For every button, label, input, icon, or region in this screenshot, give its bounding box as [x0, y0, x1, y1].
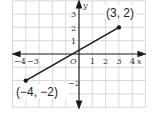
x-axis-label: x — [137, 57, 142, 66]
x-tick-1: 1 — [90, 57, 95, 66]
point-label-neg4-neg2: (−4, −2) — [16, 85, 58, 99]
y-tick-1: 1 — [71, 37, 76, 46]
origin-label: O — [70, 57, 77, 66]
x-tick-neg3: −3 — [27, 57, 39, 66]
x-tick-3: 3 — [117, 57, 122, 66]
y-tick-2: 2 — [71, 24, 76, 33]
x-tick-4: 4 — [130, 57, 135, 66]
y-tick-3: 3 — [71, 10, 76, 19]
point-3-2 — [117, 25, 121, 29]
x-tick-neg4: −4 — [14, 57, 26, 66]
point-neg4-neg2 — [24, 78, 28, 82]
y-tick-neg2: −2 — [68, 79, 80, 88]
coordinate-graph: −4 −3 O 1 2 3 4 x 3 2 1 −2 y (3, 2) (−4,… — [0, 0, 153, 113]
point-label-3-2: (3, 2) — [106, 6, 134, 20]
y-axis-label: y — [82, 1, 88, 10]
x-tick-2: 2 — [103, 57, 108, 66]
